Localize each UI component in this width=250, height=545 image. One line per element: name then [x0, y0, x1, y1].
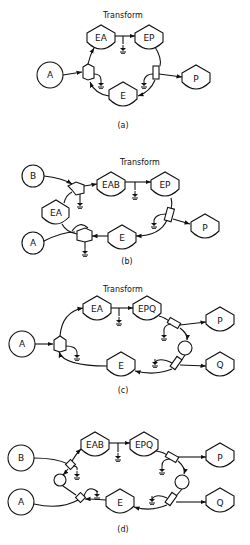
- transform-label: Transform: [102, 11, 143, 20]
- node-a: A: [37, 62, 63, 88]
- panel-c: Transform A EA EPQ E P Q: [9, 285, 234, 395]
- svg-text:P: P: [202, 223, 208, 233]
- svg-text:P: P: [217, 316, 223, 326]
- node-epq: EPQ: [130, 432, 158, 456]
- node-p: P: [182, 65, 210, 89]
- panel-a: Transform A EA EP E P: [37, 11, 210, 130]
- svg-text:EAB: EAB: [102, 180, 120, 190]
- node-e: E: [109, 82, 137, 106]
- svg-text:B: B: [30, 171, 36, 181]
- svg-text:EP: EP: [143, 33, 155, 43]
- node-b: B: [8, 445, 34, 471]
- svg-text:Q: Q: [216, 360, 223, 370]
- node-ep: EP: [135, 25, 163, 49]
- node-e: E: [108, 225, 136, 249]
- svg-text:A: A: [30, 238, 37, 248]
- panel-b: Transform B A EA EAB EP E P: [22, 158, 219, 266]
- node-b: B: [22, 165, 44, 187]
- svg-text:P: P: [217, 453, 223, 463]
- svg-text:A: A: [47, 70, 54, 80]
- transform-label: Transform: [102, 285, 143, 294]
- svg-text:E: E: [119, 233, 125, 243]
- svg-text:E: E: [117, 498, 123, 508]
- caption-b: (b): [121, 257, 132, 266]
- transform-label: Transform: [119, 158, 160, 167]
- node-eab: EAB: [81, 432, 109, 456]
- caption-a: (a): [117, 121, 128, 130]
- node-epq: EPQ: [133, 296, 161, 320]
- svg-text:A: A: [18, 497, 25, 507]
- node-a: A: [8, 489, 34, 515]
- svg-text:EAB: EAB: [86, 440, 104, 450]
- node-p: P: [206, 307, 234, 331]
- node-ea: EA: [83, 296, 111, 320]
- svg-text:E: E: [120, 91, 126, 101]
- node-a: A: [9, 331, 35, 357]
- enzyme-mechanism-figure: Transform A EA EP E P: [0, 0, 250, 545]
- svg-text:E: E: [118, 361, 124, 371]
- svg-text:A: A: [19, 339, 26, 349]
- svg-text:B: B: [18, 453, 24, 463]
- node-ep: EP: [151, 172, 179, 196]
- node-p: P: [191, 214, 219, 238]
- svg-text:EA: EA: [91, 304, 104, 314]
- caption-c: (c): [118, 386, 129, 395]
- svg-text:EPQ: EPQ: [138, 304, 156, 314]
- node-eab: EAB: [97, 172, 125, 196]
- node-a: A: [22, 232, 44, 254]
- svg-text:Q: Q: [216, 498, 223, 508]
- svg-text:EP: EP: [159, 180, 171, 190]
- node-e: E: [106, 489, 134, 513]
- svg-text:EPQ: EPQ: [135, 440, 153, 450]
- svg-text:EA: EA: [95, 33, 108, 43]
- panel-d: B A EAB EPQ E P Q: [8, 432, 234, 534]
- node-p: P: [206, 443, 234, 467]
- node-ea: EA: [42, 200, 69, 224]
- node-q: Q: [206, 352, 234, 376]
- node-ea: EA: [87, 25, 115, 49]
- caption-d: (d): [117, 525, 128, 534]
- svg-text:EA: EA: [50, 208, 63, 218]
- node-e: E: [107, 352, 135, 376]
- svg-text:P: P: [193, 74, 199, 84]
- node-q: Q: [206, 488, 234, 512]
